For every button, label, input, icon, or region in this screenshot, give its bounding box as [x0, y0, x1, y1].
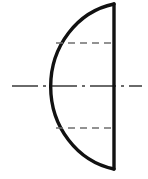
technical-drawing-canvas [0, 0, 148, 179]
semicircle-drawing-svg [0, 0, 148, 179]
